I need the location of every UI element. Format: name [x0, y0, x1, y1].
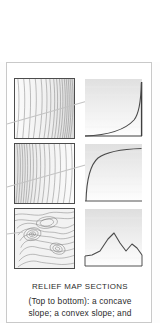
- contour-map-convex: [14, 143, 75, 204]
- profile-convex: [84, 143, 145, 204]
- page-whitespace: [0, 0, 160, 62]
- figure-row-irregular: [14, 208, 145, 269]
- relief-map-figure-card: RELIEF MAP SECTIONS (Top to bottom): a c…: [6, 62, 152, 323]
- profile-concave: [84, 78, 145, 139]
- figure-caption: RELIEF MAP SECTIONS (Top to bottom): a c…: [11, 281, 149, 320]
- panel-grid: [14, 78, 145, 269]
- profile-irregular: [84, 208, 145, 269]
- contour-map-concave: [14, 78, 75, 139]
- figure-row-concave: [14, 78, 145, 139]
- caption-line-1: (Top to bottom): a concave: [11, 295, 149, 308]
- caption-title: RELIEF MAP SECTIONS: [11, 281, 149, 294]
- figure-row-convex: [14, 143, 145, 204]
- caption-line-2: slope; a convex slope; and: [11, 307, 149, 320]
- contour-map-irregular: [14, 208, 75, 269]
- page-root: RELIEF MAP SECTIONS (Top to bottom): a c…: [0, 0, 160, 323]
